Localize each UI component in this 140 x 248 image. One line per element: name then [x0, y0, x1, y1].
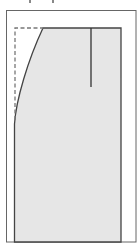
pattern-diagram [0, 0, 140, 248]
cropped-caption-fragment [29, 0, 54, 3]
pattern-piece-shape [15, 28, 122, 242]
